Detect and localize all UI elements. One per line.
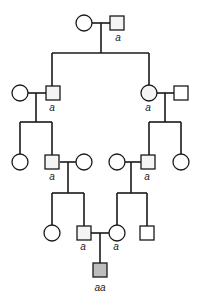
affected-male-symbol-V-1: [93, 263, 107, 277]
pedigree-chart: a a a a a: [0, 0, 200, 297]
female-symbol-I-1: [76, 15, 92, 31]
genotype-label-III-5: a: [144, 171, 150, 182]
female-symbol-II-1: [12, 85, 28, 101]
male-symbol-II-2: [46, 86, 60, 100]
male-symbol-II-4: [174, 86, 188, 100]
male-symbol-I-2: [110, 16, 124, 30]
male-symbol-III-2: [45, 155, 59, 169]
female-symbol-IV-3: [109, 225, 125, 241]
generation-5: aa: [93, 263, 107, 293]
genotype-label-IV-2: a: [80, 241, 86, 252]
genotype-label-II-2: a: [49, 102, 55, 113]
female-symbol-IV-1: [44, 225, 60, 241]
female-symbol-III-1: [12, 154, 28, 170]
genotype-label-V-1: aa: [94, 282, 106, 293]
genotype-label-IV-3: a: [113, 241, 119, 252]
female-symbol-III-3: [76, 154, 92, 170]
generation-3: a a: [12, 122, 189, 193]
male-symbol-IV-4: [140, 226, 154, 240]
genotype-label-III-2: a: [49, 171, 55, 182]
genotype-label-I-2: a: [115, 32, 121, 43]
genotype-label-II-3: a: [145, 102, 151, 113]
female-symbol-II-3: [141, 85, 157, 101]
female-symbol-III-6: [173, 154, 189, 170]
generation-2: a a: [12, 53, 188, 122]
generation-1: a: [52, 15, 149, 53]
generation-4: a a: [44, 193, 154, 263]
male-symbol-IV-2: [77, 226, 91, 240]
male-symbol-III-5: [141, 155, 155, 169]
female-symbol-III-4: [109, 154, 125, 170]
